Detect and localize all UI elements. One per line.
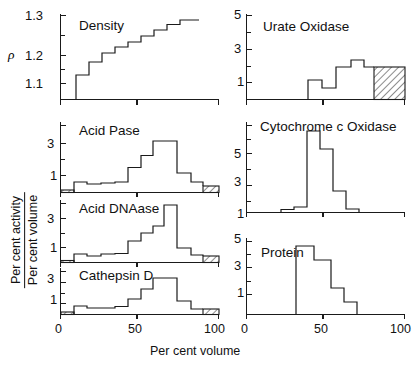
panel-protein: Protein	[246, 238, 406, 320]
panel-urate-oxidase: Urate Oxidase	[246, 14, 406, 106]
cytochrome-ytick-3: 3	[234, 174, 241, 189]
left-xtick-50: 50	[128, 322, 142, 336]
panel-cytochrome-c-oxidase: Cytochrome c Oxidase	[246, 122, 406, 218]
panel-title-cathepsin-d: Cathepsin D	[79, 268, 154, 283]
protein-ytick-5: 5	[234, 231, 241, 246]
panel-title-density: Density	[79, 18, 124, 33]
cytochrome-ytick-1: 1	[237, 206, 244, 221]
urate-oxidase-ytick-5: 5	[234, 7, 241, 22]
panel-density: Density	[60, 14, 220, 106]
left-xtick-0: 0	[55, 322, 62, 336]
acid-pase-hatch-right	[203, 186, 219, 193]
right-xtick-100: 100	[390, 322, 411, 336]
panel-title-cytochrome-c-oxidase: Cytochrome c Oxidase	[260, 119, 397, 134]
panel-acid-dnaase: Acid DNAase	[60, 200, 220, 268]
urate-oxidase-ytick-1: 1	[237, 74, 244, 89]
panel-cathepsin-d: Cathepsin D	[60, 268, 220, 320]
panel-title-acid-dnaase: Acid DNAase	[79, 201, 159, 216]
acid-dnaase-ytick-1: 1	[50, 240, 57, 255]
cathepsin-d-ytick-3: 3	[47, 271, 54, 286]
y-axis-title-numerator: Per cent activity	[9, 192, 25, 288]
density-ytick-1_2: 1.2	[25, 48, 43, 63]
acid-dnaase-ytick-3: 3	[47, 211, 54, 226]
protein-ytick-1: 1	[237, 285, 244, 300]
cathepsin-d-hatch-left	[61, 312, 74, 315]
cathepsin-d-ytick-1: 1	[50, 292, 57, 307]
cytochrome-c-oxidase-histogram	[281, 131, 359, 213]
panel-title-urate-oxidase: Urate Oxidase	[263, 19, 349, 34]
urate-oxidase-hatch-bar	[374, 67, 405, 100]
cathepsin-d-histogram	[74, 278, 203, 315]
density-ytick-1_1: 1.1	[25, 76, 43, 91]
cytochrome-c-oxidase-axes	[247, 122, 406, 213]
protein-ytick-3: 3	[234, 258, 241, 273]
panel-title-protein: Protein	[261, 245, 304, 260]
density-axis-symbol: ρ	[8, 47, 14, 63]
protein-histogram	[296, 246, 357, 315]
right-xtick-50: 50	[314, 322, 328, 336]
x-axis-title: Per cent volume	[150, 344, 240, 358]
acid-dnaase-hatch-right	[203, 256, 219, 263]
panel-title-acid-pase: Acid Pase	[79, 123, 140, 138]
acid-pase-ytick-1: 1	[50, 168, 57, 183]
urate-oxidase-ytick-3: 3	[234, 41, 241, 56]
left-xtick-100: 100	[204, 322, 225, 336]
acid-pase-histogram	[74, 141, 203, 193]
acid-pase-hatch-left	[61, 190, 74, 193]
density-ytick-1_3: 1.3	[25, 8, 43, 23]
y-axis-title-denominator: Per cent volume	[26, 192, 41, 288]
right-xtick-0: 0	[241, 322, 248, 336]
panel-acid-pase: Acid Pase	[60, 122, 220, 198]
acid-dnaase-hatch-left	[61, 261, 74, 263]
cytochrome-ytick-5: 5	[234, 146, 241, 161]
density-gradient-figure: Density 1.3 1.2 1.1 ρ Acid Pase 3 1	[0, 0, 419, 370]
acid-pase-ytick-3: 3	[47, 136, 54, 151]
urate-oxidase-histogram	[308, 60, 374, 100]
cathepsin-d-hatch-right	[203, 309, 219, 315]
y-axis-title: Per cent activity Per cent volume	[2, 150, 48, 330]
